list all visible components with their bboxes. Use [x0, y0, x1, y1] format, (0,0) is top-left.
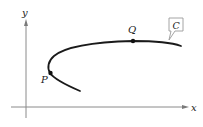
y-axis-label: y: [21, 7, 28, 18]
x-axis-label: x: [191, 102, 197, 113]
point-p-dot: [48, 71, 52, 75]
callout-label: C: [173, 20, 181, 31]
x-axis-arrow-icon: [182, 105, 189, 109]
curve-diagram: y x P Q C: [0, 0, 203, 127]
x-axis: x: [11, 102, 197, 113]
curve-c: [48, 41, 181, 91]
y-axis: y: [21, 7, 28, 118]
point-q-dot: [131, 39, 135, 43]
curve-callout: C: [169, 18, 183, 40]
point-q-label: Q: [128, 24, 136, 35]
point-p-label: P: [40, 74, 48, 85]
point-p: P: [40, 71, 53, 85]
y-axis-arrow-icon: [24, 19, 28, 26]
